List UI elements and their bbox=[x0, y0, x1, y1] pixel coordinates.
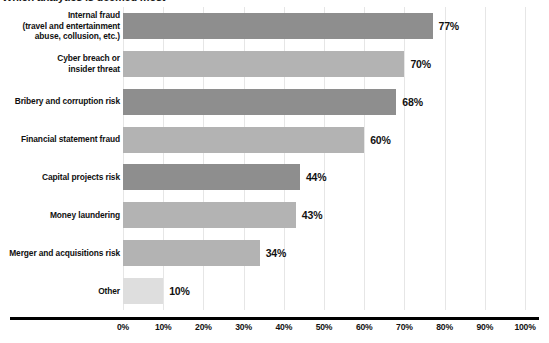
category-label: Internal fraud(travel and entertainmenta… bbox=[0, 10, 120, 42]
bar bbox=[123, 240, 260, 266]
category-label: Financial statement fraud bbox=[0, 134, 120, 145]
x-axis-tick-labels: 0%10%20%30%40%50%60%70%80%90%100% bbox=[0, 322, 549, 340]
bar bbox=[123, 89, 396, 115]
bar-value-label: 70% bbox=[410, 58, 430, 70]
x-tick-label: 90% bbox=[476, 322, 493, 332]
bar-row: Internal fraud(travel and entertainmenta… bbox=[0, 7, 549, 45]
bar-row: Other10% bbox=[0, 272, 549, 310]
bar-value-label: 43% bbox=[302, 209, 322, 221]
bar bbox=[123, 127, 364, 153]
bar-row: Bribery and corruption risk68% bbox=[0, 83, 549, 121]
bar-row: Financial statement fraud60% bbox=[0, 121, 549, 159]
x-tick-label: 80% bbox=[436, 322, 453, 332]
x-tick-label: 30% bbox=[235, 322, 252, 332]
bar-value-label: 68% bbox=[402, 96, 422, 108]
category-label: Merger and acquisitions risk bbox=[0, 248, 120, 259]
category-label: Money laundering bbox=[0, 210, 120, 221]
bar-value-label: 10% bbox=[169, 285, 189, 297]
bar-value-label: 44% bbox=[306, 171, 326, 183]
x-tick-label: 60% bbox=[356, 322, 373, 332]
bar-value-label: 34% bbox=[266, 247, 286, 259]
x-tick-label: 0% bbox=[117, 322, 129, 332]
x-axis-line bbox=[10, 317, 539, 320]
bar bbox=[123, 164, 300, 190]
x-tick-label: 70% bbox=[396, 322, 413, 332]
x-tick-label: 40% bbox=[275, 322, 292, 332]
bar bbox=[123, 13, 433, 39]
x-tick-label: 10% bbox=[155, 322, 172, 332]
chart-title: Which analytics is deemed most bbox=[2, 0, 165, 3]
x-tick-label: 100% bbox=[514, 322, 535, 332]
bar bbox=[123, 51, 404, 77]
bar bbox=[123, 278, 163, 304]
bar-row: Money laundering43% bbox=[0, 196, 549, 234]
x-tick-label: 20% bbox=[195, 322, 212, 332]
x-tick-label: 50% bbox=[316, 322, 333, 332]
bar-rows: Internal fraud(travel and entertainmenta… bbox=[0, 7, 549, 310]
bar-value-label: 60% bbox=[370, 134, 390, 146]
bar-chart: Which analytics is deemed most Internal … bbox=[0, 0, 549, 343]
bar-row: Capital projects risk44% bbox=[0, 159, 549, 197]
bar bbox=[123, 202, 296, 228]
chart-title-clipped: Which analytics is deemed most bbox=[0, 0, 220, 7]
bar-row: Cyber breach orinsider threat70% bbox=[0, 45, 549, 83]
category-label: Bribery and corruption risk bbox=[0, 96, 120, 107]
bar-value-label: 77% bbox=[439, 20, 459, 32]
category-label: Other bbox=[0, 286, 120, 297]
bar-row: Merger and acquisitions risk34% bbox=[0, 234, 549, 272]
category-label: Capital projects risk bbox=[0, 172, 120, 183]
category-label: Cyber breach orinsider threat bbox=[0, 53, 120, 74]
